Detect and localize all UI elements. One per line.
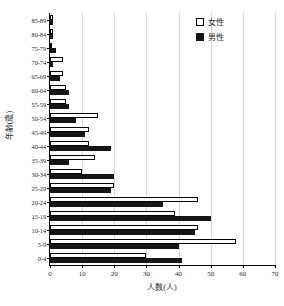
y-tick-label: 30-34: [32, 171, 46, 178]
bar-female: [50, 141, 89, 146]
y-tick-label: 40-44: [32, 143, 46, 150]
bar-female: [50, 197, 198, 202]
y-tick-label: 50-54: [32, 115, 46, 122]
bar-male: [50, 90, 69, 95]
y-tick-label: 0-4: [38, 255, 46, 262]
bar-male: [50, 34, 53, 39]
legend-label-female: 女性: [208, 16, 224, 27]
x-tick-mark: [211, 265, 212, 268]
bar-male: [50, 118, 76, 123]
x-tick-label: 70: [272, 270, 279, 278]
open-square-icon: [196, 18, 204, 26]
y-tick-label: 70-74: [32, 59, 46, 66]
y-axis-title: 年齢(歳): [3, 96, 14, 156]
bar-female: [50, 155, 95, 160]
bar-male: [50, 146, 111, 151]
bar-female: [50, 225, 198, 230]
bar-male: [50, 230, 195, 235]
y-tick-label: 45-49: [32, 129, 46, 136]
y-tick-label: 60-64: [32, 87, 46, 94]
bar-male: [50, 48, 56, 53]
x-tick-mark: [50, 265, 51, 268]
y-tick-label: 75-79: [32, 45, 46, 52]
bar-male: [50, 216, 211, 221]
bar-male: [50, 174, 114, 179]
bar-female: [50, 239, 236, 244]
chart-legend: 女性 男性: [196, 16, 224, 46]
bar-female: [50, 211, 175, 216]
y-tick-label: 35-39: [32, 157, 46, 164]
x-tick-label: 20: [111, 270, 118, 278]
x-axis-title: 人数(人): [49, 281, 275, 292]
bar-male: [50, 132, 85, 137]
bar-female: [50, 99, 66, 104]
x-tick-mark: [82, 265, 83, 268]
bar-female: [50, 29, 53, 34]
bar-male: [50, 76, 60, 81]
bar-female: [50, 85, 66, 90]
plot-area: 01020304050607085-8980-8475-7970-7465-69…: [49, 13, 275, 266]
bar-female: [50, 71, 63, 76]
bar-male: [50, 20, 53, 25]
legend-item-female: 女性: [196, 16, 224, 27]
x-tick-mark: [275, 265, 276, 268]
y-tick-label: 5-9: [38, 241, 46, 248]
bar-male: [50, 104, 69, 109]
x-tick-mark: [179, 265, 180, 268]
y-tick-label: 55-59: [32, 101, 46, 108]
y-tick-label: 65-69: [32, 73, 46, 80]
gridline: [275, 13, 276, 265]
bar-male: [50, 160, 69, 165]
bar-male: [50, 244, 179, 249]
bar-female: [50, 169, 82, 174]
x-tick-mark: [146, 265, 147, 268]
x-tick-label: 30: [143, 270, 150, 278]
bar-female: [50, 183, 114, 188]
population-pyramid-chart: 01020304050607085-8980-8475-7970-7465-69…: [0, 0, 284, 306]
filled-square-icon: [196, 33, 204, 41]
legend-label-male: 男性: [208, 31, 224, 42]
x-tick-label: 60: [239, 270, 246, 278]
bar-female: [50, 253, 146, 258]
bar-male: [50, 202, 163, 207]
x-tick-mark: [114, 265, 115, 268]
x-tick-label: 0: [48, 270, 52, 278]
gridline: [243, 13, 244, 265]
y-tick-label: 20-24: [32, 199, 46, 206]
bar-female: [50, 113, 98, 118]
x-tick-mark: [243, 265, 244, 268]
bar-female: [50, 43, 52, 48]
x-tick-label: 50: [207, 270, 214, 278]
gridline: [211, 13, 212, 265]
y-tick-label: 15-19: [32, 213, 46, 220]
y-tick-label: 10-14: [32, 227, 46, 234]
bar-female: [50, 127, 89, 132]
bar-male: [50, 62, 53, 67]
x-tick-label: 10: [79, 270, 86, 278]
y-tick-label: 25-29: [32, 185, 46, 192]
bar-male: [50, 188, 111, 193]
bar-female: [50, 57, 63, 62]
x-tick-label: 40: [175, 270, 182, 278]
legend-item-male: 男性: [196, 31, 224, 42]
bar-female: [50, 15, 53, 20]
y-tick-label: 80-84: [32, 31, 46, 38]
bar-male: [50, 258, 182, 263]
y-tick-label: 85-89: [32, 17, 46, 24]
